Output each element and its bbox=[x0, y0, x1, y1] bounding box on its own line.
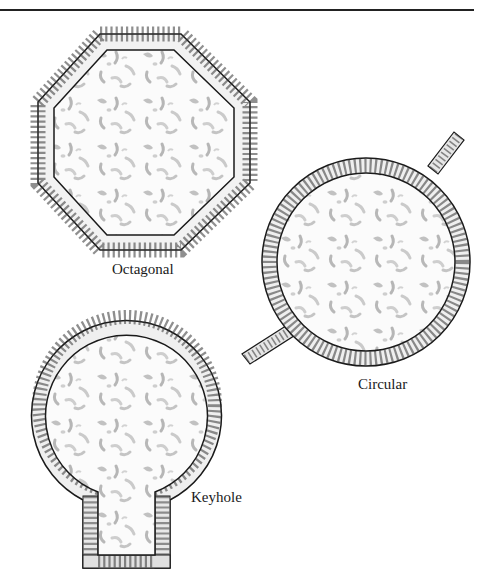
circular-shape bbox=[242, 132, 470, 366]
shapes-illustration bbox=[0, 0, 498, 580]
label-circular: Circular bbox=[358, 376, 407, 393]
label-octagonal: Octagonal bbox=[112, 261, 174, 278]
keyhole-shape bbox=[32, 317, 222, 568]
label-keyhole: Keyhole bbox=[191, 489, 242, 506]
octagonal-shape bbox=[38, 34, 250, 250]
